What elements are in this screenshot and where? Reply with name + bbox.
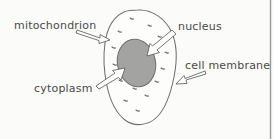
arrow-mitochondrion <box>76 30 110 44</box>
label-cytoplasm: cytoplasm <box>34 82 93 95</box>
label-nucleus: nucleus <box>178 20 222 33</box>
cell-diagram-svg: mitochondrion nucleus cell membrane cyto… <box>0 0 274 139</box>
arrow-cell-membrane <box>176 71 206 84</box>
label-cell-membrane: cell membrane <box>185 59 270 72</box>
label-mitochondrion: mitochondrion <box>14 19 96 32</box>
cell-diagram-canvas: mitochondrion nucleus cell membrane cyto… <box>0 0 274 139</box>
